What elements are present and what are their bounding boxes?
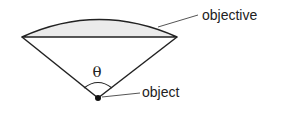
object-label: object: [142, 84, 179, 100]
objective-label: objective: [202, 7, 257, 23]
angle-label: θ: [92, 63, 101, 81]
objective-leader-line: [158, 15, 198, 27]
object-leader-line: [102, 93, 140, 97]
objective-lens-shape: [22, 20, 177, 38]
aperture-diagram: θ objective object: [0, 0, 298, 116]
object-point: [95, 95, 101, 101]
cone-left-edge: [22, 37, 98, 98]
angle-arc: [84, 83, 112, 89]
